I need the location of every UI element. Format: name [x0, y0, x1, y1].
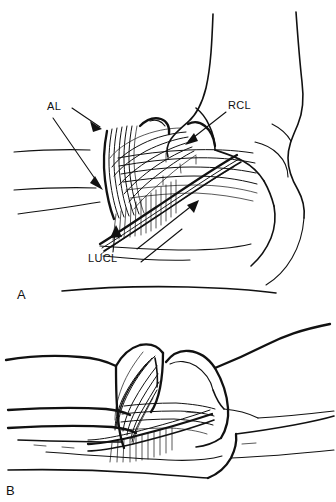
- annular-ligament-fibers: [104, 126, 144, 219]
- panel-label-b: B: [6, 484, 15, 497]
- panel-label-a: A: [17, 288, 26, 301]
- olecranon-outline: [215, 124, 291, 206]
- panel-b-illustration: [0, 310, 336, 502]
- al-leader-upper: [72, 108, 102, 132]
- upper-arm-contour: [6, 324, 330, 368]
- forearm-contour-line: [62, 287, 276, 293]
- texture-marks-b: [34, 412, 256, 448]
- forearm-outline: [251, 206, 304, 285]
- label-al: AL: [47, 101, 61, 112]
- rcl-leader: [185, 112, 226, 145]
- olecranon-body-b: [196, 368, 258, 447]
- humerus-outline: [188, 12, 304, 218]
- panel-b-drawing: [0, 310, 336, 502]
- label-rcl: RCL: [228, 100, 251, 111]
- radius-outline: [14, 150, 100, 214]
- lucl-guide-line: [141, 229, 182, 262]
- lateral-ulnar-collateral-ligament: [100, 155, 241, 254]
- right-forearm-shaft-b: [231, 411, 334, 458]
- figure-root: AL RCL LUCL A B: [0, 0, 336, 502]
- lucl-band-b: [88, 410, 214, 451]
- label-lucl: LUCL: [88, 253, 117, 264]
- lucl-leader-left: [110, 225, 122, 252]
- supinator-crest-outline: [100, 244, 251, 260]
- panel-a-drawing: [0, 0, 336, 310]
- panel-a-illustration: [0, 0, 336, 310]
